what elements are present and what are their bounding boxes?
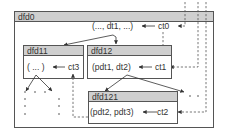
ct2-label: ct2 — [157, 107, 169, 117]
dfd12-content: (pdt1, dt2) — [92, 62, 131, 72]
dfd-diagram: dfd0 (..., dt1, ...) ct0 dfd11 ( ... ) c… — [0, 0, 226, 135]
dfd12-title: dfd12 — [91, 46, 113, 56]
dfd121-content: (pdt2, pdt3) — [90, 107, 134, 117]
dfd11-content: ( ... ) — [27, 62, 45, 72]
ct0-label: ct0 — [158, 21, 170, 31]
ct1-label: ct1 — [155, 62, 167, 72]
dfd11-title: dfd11 — [27, 46, 48, 56]
dfd121-title: dfd121 — [92, 92, 118, 102]
ct3-label: ct3 — [68, 62, 80, 72]
dfd121-box: dfd121 (pdt2, pdt3) ct2 — [89, 92, 178, 124]
dfd11-box: dfd11 ( ... ) ct3 — [24, 46, 84, 79]
dfd12-box: dfd12 (pdt1, dt2) ct1 — [88, 46, 172, 79]
dfd0-content: (..., dt1, ...) — [92, 21, 133, 31]
dfd0-title: dfd0 — [18, 12, 35, 22]
